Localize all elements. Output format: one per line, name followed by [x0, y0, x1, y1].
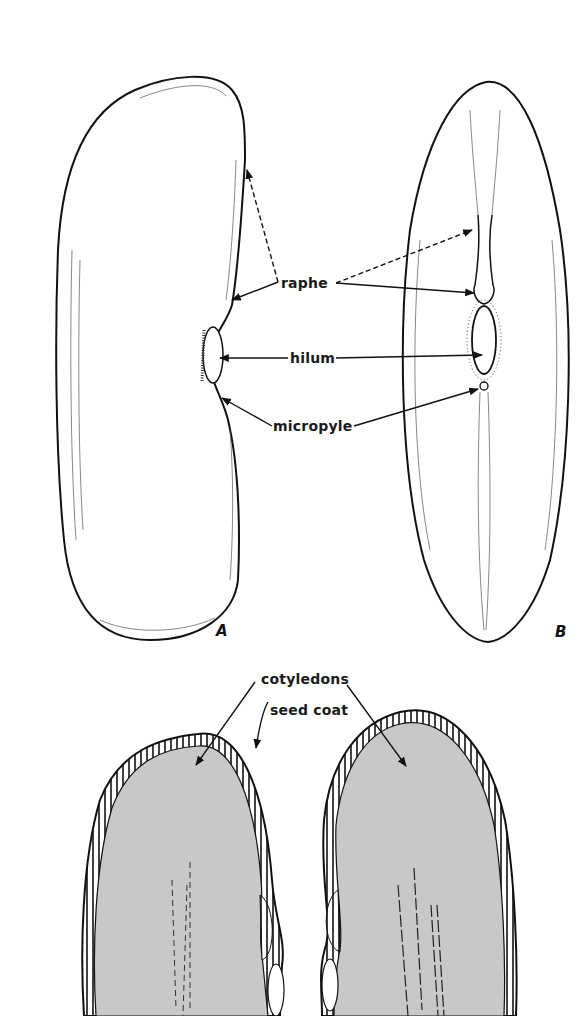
micropyle-b [480, 382, 488, 390]
hilum-a [203, 327, 223, 383]
label-hilum: hilum [290, 350, 335, 366]
seed-diagram: A B raphe hilum micropyle [0, 0, 587, 1016]
seed-view-a: A [56, 77, 245, 640]
label-micropyle: micropyle [273, 418, 352, 434]
panel-label-b: B [555, 623, 566, 641]
hilum-b [472, 306, 496, 374]
cotyledon-right [321, 710, 517, 1016]
cotyledon-left [82, 734, 284, 1016]
label-seed-coat: seed coat [270, 702, 348, 718]
panel-label-a: A [215, 622, 228, 640]
label-cotyledons: cotyledons [261, 671, 349, 687]
seed-section [82, 710, 516, 1016]
label-raphe: raphe [281, 275, 328, 291]
seed-view-b: B [403, 82, 569, 642]
